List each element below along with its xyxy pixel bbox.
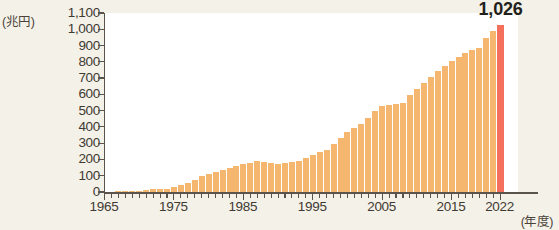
bar [386,105,392,192]
bar [407,95,413,192]
bar [275,164,281,192]
x-axis-tick [187,193,188,198]
x-axis-tick [486,193,487,198]
y-axis-tick-label: 1,100 [0,6,100,20]
x-axis-tick [389,193,390,198]
x-axis-tick [368,193,369,198]
x-axis-tick [444,193,445,198]
y-axis-tick-label: 1,000 [0,23,100,37]
x-axis-tick [375,193,376,198]
x-axis-tick [271,193,272,198]
bar [490,31,496,192]
bar [435,71,441,192]
x-axis-tick [395,193,396,198]
bar [310,155,316,192]
x-axis-tick [257,193,258,198]
x-axis-tick [361,193,362,198]
peak-value-annotation: 1,026 [479,0,523,20]
bars-layer [105,13,518,192]
x-axis-tick [291,193,292,198]
bar [199,176,205,192]
bar [282,163,288,192]
bar [338,138,344,192]
x-axis-tick [236,193,237,198]
bar [428,77,434,192]
bar [344,132,350,192]
y-axis-tick [98,159,104,160]
x-axis-tick [132,193,133,198]
y-axis-tick-label: 200 [0,153,100,167]
bar [379,106,385,192]
x-axis-tick-label: 2015 [437,199,466,214]
bar [393,104,399,192]
bar [400,103,406,192]
x-axis-tick [319,193,320,198]
bar-highlight [497,25,503,192]
y-axis-tick-label: 300 [0,136,100,150]
x-axis-tick [347,193,348,198]
bar [372,111,378,192]
y-axis-tick [98,77,104,78]
x-axis-tick [166,193,167,198]
bar [456,57,462,192]
x-axis-tick [125,193,126,198]
x-axis-tick [160,193,161,198]
y-axis-tick-label: 800 [0,55,100,69]
bar [449,61,455,192]
x-axis-tick [402,193,403,198]
x-axis-tick [416,193,417,198]
bar [261,162,267,192]
x-axis-tick [222,193,223,198]
x-axis-tick [284,193,285,198]
x-axis-tick [409,193,410,198]
bar [206,174,212,192]
x-axis-tick [298,193,299,198]
government-debt-bar-chart: (兆円) 1,1001,0009008007006005004003002001… [0,0,559,230]
x-axis-tick [153,193,154,198]
y-axis-tick [98,143,104,144]
x-axis-tick [229,193,230,198]
y-axis-tick [98,175,104,176]
x-axis-tick [430,193,431,198]
y-axis-tick-label: 100 [0,169,100,183]
bar [296,161,302,192]
x-axis-tick [479,193,480,198]
bar [192,180,198,192]
x-axis-tick [180,193,181,198]
x-axis-tick [118,193,119,198]
bar [227,168,233,192]
x-axis-tick [340,193,341,198]
bar [358,124,364,193]
bar [247,163,253,192]
bar [289,162,295,192]
x-axis-tick-label: 1965 [90,199,119,214]
x-axis-tick [354,193,355,198]
bar [317,152,323,192]
y-axis-tick [98,110,104,111]
x-axis-tick [278,193,279,198]
bar [351,128,357,192]
x-axis-tick [139,193,140,198]
x-axis-tick [423,193,424,198]
y-axis-tick [98,29,104,30]
bar [331,144,337,192]
bar [268,163,274,192]
bar [233,166,239,192]
bar [220,170,226,192]
y-axis-tick [98,94,104,95]
x-axis-tick [146,193,147,198]
y-axis-tick [98,126,104,127]
bar [324,150,330,192]
bar [303,158,309,192]
bar [414,89,420,192]
y-axis-tick-label: 500 [0,104,100,118]
x-axis-tick [493,193,494,198]
x-axis-tick [111,193,112,198]
x-axis-tick-label: 2005 [367,199,396,214]
y-axis-tick [98,12,104,13]
bar [178,185,184,192]
y-axis-tick-labels: 1,1001,0009008007006005004003002001000 [0,0,100,230]
bar [365,118,371,192]
y-axis-tick [98,61,104,62]
x-axis-tick [208,193,209,198]
